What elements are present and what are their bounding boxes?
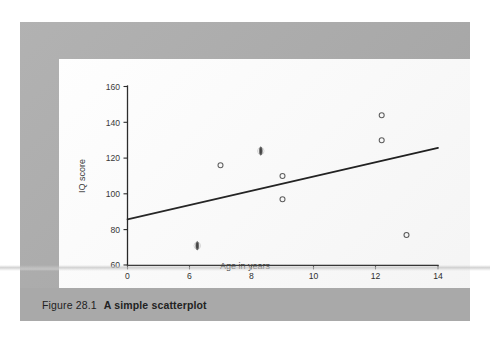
data-point <box>404 233 409 238</box>
data-point <box>280 197 285 202</box>
figure-caption-band: Figure 28.1A simple scatterplot <box>20 288 470 321</box>
y-tick-label-100: 100 <box>106 189 121 199</box>
x-tick-label-12: 12 <box>371 271 381 281</box>
data-point <box>258 147 265 155</box>
chart-canvas: 160 140 120 100 80 60 IQ score <box>59 59 471 292</box>
scatterplot-svg: 160 140 120 100 80 60 IQ score <box>59 59 471 292</box>
figure-frame: 160 140 120 100 80 60 IQ score <box>20 22 470 321</box>
y-tick-label-120: 120 <box>106 153 121 163</box>
caption-title: A simple scatterplot <box>104 299 207 311</box>
data-point <box>194 242 201 250</box>
regression-line <box>128 148 439 220</box>
caption-number: Figure 28.1 <box>42 299 97 311</box>
y-tick-label-160: 160 <box>106 82 121 92</box>
x-tick-label-6: 6 <box>187 271 192 281</box>
data-point <box>379 113 384 118</box>
y-axis-title: IQ score <box>77 159 87 193</box>
x-tick-label-10: 10 <box>309 271 319 281</box>
data-points <box>194 113 409 250</box>
data-point <box>280 174 285 179</box>
x-tick-label-14: 14 <box>433 271 443 281</box>
data-point <box>218 163 223 168</box>
y-axis: 160 140 120 100 80 60 IQ score <box>77 82 128 270</box>
x-axis-title-overlay: Age in years <box>0 261 490 271</box>
y-tick-label-140: 140 <box>106 118 121 128</box>
scanned-page: 160 140 120 100 80 60 IQ score <box>0 0 490 347</box>
data-point <box>379 138 384 143</box>
y-tick-label-80: 80 <box>110 225 120 235</box>
x-tick-label-0: 0 <box>125 271 130 281</box>
figure-caption: Figure 28.1A simple scatterplot <box>42 299 207 311</box>
x-tick-label-8: 8 <box>249 271 254 281</box>
